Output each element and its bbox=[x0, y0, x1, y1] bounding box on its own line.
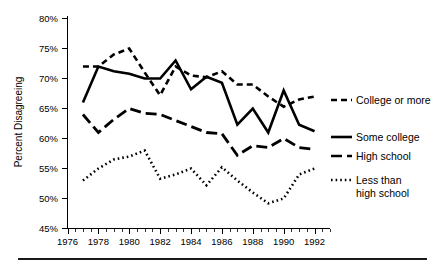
x-tick-label: 1982 bbox=[150, 236, 171, 247]
y-tick-label: 55% bbox=[39, 163, 59, 174]
x-tick-label: 1980 bbox=[119, 236, 140, 247]
series-line-less-than-high-school bbox=[83, 151, 315, 204]
y-tick-label: 80% bbox=[39, 13, 59, 24]
y-axis-ticks bbox=[62, 19, 68, 229]
x-tick-label: 1988 bbox=[242, 236, 263, 247]
x-tick-label: 1986 bbox=[211, 236, 232, 247]
x-tick-label: 1984 bbox=[180, 236, 201, 247]
x-tick-label: 1992 bbox=[304, 236, 325, 247]
legend-label-less-than: Less than bbox=[356, 174, 402, 186]
chart-figure: 80% 75% 70% 65% 60% 55% 50% 45% Percent … bbox=[0, 0, 445, 270]
y-tick-label: 75% bbox=[39, 43, 59, 54]
y-tick-label: 65% bbox=[39, 103, 59, 114]
line-chart: 80% 75% 70% 65% 60% 55% 50% 45% Percent … bbox=[0, 0, 445, 270]
x-axis-tick-labels: 197619781980198219841986198819901992 bbox=[57, 236, 325, 247]
x-tick-label: 1990 bbox=[273, 236, 294, 247]
legend: College or more Some college High school… bbox=[331, 94, 431, 199]
chart-series bbox=[83, 49, 315, 204]
y-tick-label: 60% bbox=[39, 133, 59, 144]
x-tick-label: 1976 bbox=[57, 236, 78, 247]
legend-label-high-school-second-line: high school bbox=[356, 187, 409, 199]
legend-label-college-or-more: College or more bbox=[356, 94, 431, 106]
y-axis-title: Percent Disagreeing bbox=[13, 77, 24, 168]
y-tick-label: 45% bbox=[39, 223, 59, 234]
x-tick-label: 1978 bbox=[88, 236, 109, 247]
y-tick-label: 70% bbox=[39, 73, 59, 84]
y-axis-tick-labels: 80% 75% 70% 65% 60% 55% 50% 45% bbox=[39, 13, 59, 234]
x-axis-ticks bbox=[68, 229, 331, 234]
series-line-some-college bbox=[83, 61, 315, 133]
series-line-high-school bbox=[83, 109, 315, 156]
legend-label-high-school: High school bbox=[356, 150, 411, 162]
y-tick-label: 50% bbox=[39, 193, 59, 204]
legend-label-some-college: Some college bbox=[356, 131, 420, 143]
